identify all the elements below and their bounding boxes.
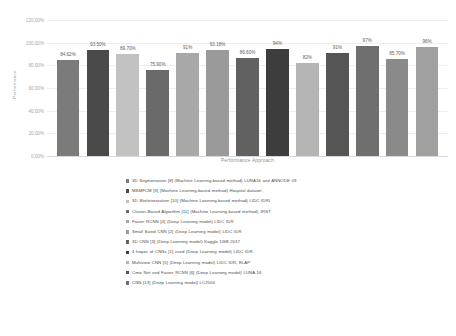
y-axis-tick: 60.00%: [8, 86, 44, 91]
legend-swatch-icon: [126, 261, 129, 264]
legend-item[interactable]: Faster RCNN [4] (Deep Learning model) LI…: [126, 219, 426, 225]
bar[interactable]: 91%: [326, 53, 349, 156]
legend-swatch-icon: [126, 220, 129, 223]
bar-value-label: 93.50%: [90, 42, 106, 47]
legend-label: MSMFCM [9] (Machine Learning-based metho…: [132, 188, 262, 194]
bar[interactable]: 97%: [356, 46, 379, 156]
legend-item[interactable]: Cluster-Based Algorithm [11] (Machine Le…: [126, 209, 426, 215]
legend-item[interactable]: 3D Segmentation [8] (Machine Learning-ba…: [126, 178, 426, 184]
legend-label: Multiview CNN [5] (Deep Learning model) …: [132, 260, 250, 266]
legend-swatch-icon: [126, 281, 129, 284]
legend-label: 3D CNN [3] (Deep Learning model) Kaggle …: [132, 239, 240, 245]
bar[interactable]: 93.50%: [87, 50, 110, 156]
bar-value-label: 97%: [363, 38, 372, 43]
chart-legend: 3D Segmentation [8] (Machine Learning-ba…: [126, 178, 426, 290]
bar-value-label: 91%: [183, 45, 192, 50]
legend-label: Cluster-Based Algorithm [11] (Machine Le…: [132, 209, 271, 215]
y-axis-tick: 0.00%: [8, 154, 44, 159]
legend-label: Small Sized CNN [2] (Deep Learning model…: [132, 229, 242, 235]
bar[interactable]: 85.70%: [386, 59, 409, 156]
bar-value-label: 75.90%: [150, 62, 166, 67]
y-axis-tick: 20.00%: [8, 131, 44, 136]
legend-label: CNN [13] (Deep Learning model) LC2500: [132, 280, 215, 286]
legend-label: Cmix Net and Faster RCNN [6] (Deep Learn…: [132, 270, 261, 276]
legend-item[interactable]: MSMFCM [9] (Machine Learning-based metho…: [126, 188, 426, 194]
bar-value-label: 94%: [273, 41, 282, 46]
bar-slot: 93.50%: [83, 20, 113, 156]
legend-item[interactable]: Small Sized CNN [2] (Deep Learning model…: [126, 229, 426, 235]
bar[interactable]: 89.70%: [116, 54, 139, 156]
bar-value-label: 82%: [303, 55, 312, 60]
bar-slot: 96%: [412, 20, 442, 156]
y-axis-tick: 80.00%: [8, 63, 44, 68]
legend-item[interactable]: 3D Skeletonization [10] (Machine Learnin…: [126, 198, 426, 204]
bar-value-label: 96%: [422, 39, 431, 44]
bar-slot: 97%: [352, 20, 382, 156]
bar-slot: 89.70%: [113, 20, 143, 156]
legend-item[interactable]: 3D CNN [3] (Deep Learning model) Kaggle …: [126, 239, 426, 245]
legend-item[interactable]: 4 hopes of CNNs [1] used (Deep Learning …: [126, 249, 426, 255]
legend-swatch-icon: [126, 200, 129, 203]
y-axis-tick: 100.00%: [8, 40, 44, 45]
bar-series: 84.62%93.50%89.70%75.90%91%93.18%86.60%9…: [47, 20, 448, 156]
legend-swatch-icon: [126, 271, 129, 274]
plot-area: 84.62%93.50%89.70%75.90%91%93.18%86.60%9…: [47, 20, 448, 156]
bar-slot: 86.60%: [233, 20, 263, 156]
bar-chart: Performance 0.00%20.00%40.00%60.00%80.00…: [0, 8, 456, 168]
bar-value-label: 85.70%: [389, 51, 405, 56]
bar-value-label: 86.60%: [240, 50, 256, 55]
bar[interactable]: 86.60%: [236, 58, 259, 156]
bar[interactable]: 94%: [266, 49, 289, 156]
legend-label: Faster RCNN [4] (Deep Learning model) LI…: [132, 219, 234, 225]
legend-label: 3D Skeletonization [10] (Machine Learnin…: [132, 198, 270, 204]
legend-item[interactable]: CNN [13] (Deep Learning model) LC2500: [126, 280, 426, 286]
legend-item[interactable]: Cmix Net and Faster RCNN [6] (Deep Learn…: [126, 270, 426, 276]
legend-swatch-icon: [126, 189, 129, 192]
bar[interactable]: 75.90%: [146, 70, 169, 156]
bar[interactable]: 84.62%: [57, 60, 80, 156]
legend-swatch-icon: [126, 179, 129, 182]
bar-slot: 94%: [262, 20, 292, 156]
y-axis-tick: 40.00%: [8, 108, 44, 113]
bar-slot: 91%: [173, 20, 203, 156]
legend-swatch-icon: [126, 251, 129, 254]
bar[interactable]: 93.18%: [206, 50, 229, 156]
bar[interactable]: 91%: [176, 53, 199, 156]
bar-slot: 91%: [322, 20, 352, 156]
legend-label: 4 hopes of CNNs [1] used (Deep Learning …: [132, 249, 253, 255]
x-axis-line: [47, 156, 448, 157]
bar-slot: 85.70%: [382, 20, 412, 156]
legend-swatch-icon: [126, 230, 129, 233]
bar-slot: 75.90%: [143, 20, 173, 156]
legend-label: 3D Segmentation [8] (Machine Learning-ba…: [132, 178, 296, 184]
y-axis-tick: 120.00%: [8, 18, 44, 23]
legend-swatch-icon: [126, 240, 129, 243]
bar-slot: 84.62%: [53, 20, 83, 156]
bar-value-label: 93.18%: [210, 42, 226, 47]
bar[interactable]: 82%: [296, 63, 319, 156]
bar-slot: 93.18%: [203, 20, 233, 156]
legend-item[interactable]: Multiview CNN [5] (Deep Learning model) …: [126, 260, 426, 266]
bar-value-label: 89.70%: [120, 46, 136, 51]
chart-page: Performance 0.00%20.00%40.00%60.00%80.00…: [0, 0, 456, 336]
x-axis-title: Performance Approach: [47, 158, 448, 163]
bar[interactable]: 96%: [416, 47, 439, 156]
legend-swatch-icon: [126, 210, 129, 213]
bar-slot: 82%: [292, 20, 322, 156]
bar-value-label: 84.62%: [60, 52, 76, 57]
bar-value-label: 91%: [333, 45, 342, 50]
